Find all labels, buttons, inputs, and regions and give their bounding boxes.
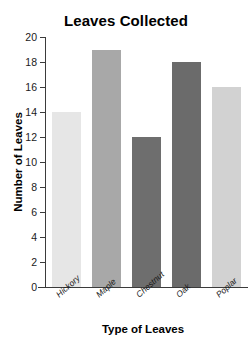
y-tick-mark xyxy=(40,237,45,238)
y-tick-label: 16 xyxy=(14,82,37,93)
y-tick-label: 14 xyxy=(14,107,37,118)
y-tick-mark xyxy=(40,37,45,38)
bar-chestnut xyxy=(132,137,161,287)
y-tick-label: 20 xyxy=(14,32,37,43)
y-tick-label: 18 xyxy=(14,57,37,68)
y-tick-mark xyxy=(40,87,45,88)
y-tick-mark xyxy=(40,162,45,163)
y-tick-label: 0 xyxy=(14,282,37,293)
y-tick-mark xyxy=(40,287,45,288)
y-tick-mark xyxy=(40,62,45,63)
plot-area xyxy=(46,37,246,287)
bar-oak xyxy=(172,62,201,287)
bar-poplar xyxy=(212,87,241,287)
y-tick-label: 10 xyxy=(14,157,37,168)
y-tick-mark xyxy=(40,112,45,113)
x-axis-title: Type of Leaves xyxy=(38,323,248,335)
bar-maple xyxy=(92,50,121,288)
y-tick-label: 4 xyxy=(14,232,37,243)
y-tick-mark xyxy=(40,137,45,138)
y-tick-label: 2 xyxy=(14,257,37,268)
bar-chart-figure: Leaves Collected Number of Leaves 024681… xyxy=(0,0,252,353)
y-tick-label: 8 xyxy=(14,182,37,193)
y-tick-mark xyxy=(40,187,45,188)
chart-title: Leaves Collected xyxy=(0,12,252,29)
bar-hickory xyxy=(52,112,81,287)
y-tick-mark xyxy=(40,262,45,263)
y-tick-label: 12 xyxy=(14,132,37,143)
y-tick-mark xyxy=(40,212,45,213)
y-tick-label: 6 xyxy=(14,207,37,218)
